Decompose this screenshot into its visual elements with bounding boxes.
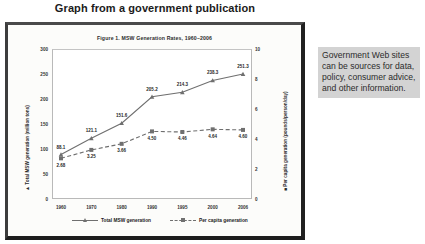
data-label: 3.25 <box>87 154 96 159</box>
right-axis-tick: 8 <box>255 77 258 82</box>
legend-item-total-msw: Total MSW generation <box>72 217 151 223</box>
x-axis-tick: 1960 <box>56 205 66 210</box>
data-point-marker <box>59 152 64 156</box>
figure-caption: Figure 1. MSW Generation Rates, 1960–200… <box>8 35 301 41</box>
page-title: Graph from a government publication <box>0 2 310 14</box>
x-axis-tick: 1995 <box>177 205 187 210</box>
plot-svg <box>53 50 251 198</box>
data-point-marker <box>150 129 154 133</box>
legend-swatch-dashed-square-icon <box>170 217 196 223</box>
data-label: 4.60 <box>239 134 248 139</box>
left-axis-tick: 150 <box>40 122 48 127</box>
x-axis-tick: 1990 <box>147 205 157 210</box>
side-note-box: Government Web sites can be sources for … <box>318 47 420 98</box>
x-axis-tick: 1970 <box>86 205 96 210</box>
data-point-marker <box>211 127 215 131</box>
data-label: 2.68 <box>57 163 66 168</box>
left-axis-tick: 200 <box>40 97 48 102</box>
data-label: 151.6 <box>116 113 127 118</box>
right-axis-title: ■ Per capita generation (pounds/person/d… <box>282 91 288 191</box>
left-axis-tick: 300 <box>40 47 48 52</box>
x-axis-tick: 2006 <box>238 205 248 210</box>
figure-frame: Figure 1. MSW Generation Rates, 1960–200… <box>5 22 305 240</box>
legend-label-total-msw: Total MSW generation <box>101 218 151 223</box>
left-axis-ticks: 050100150200250300 <box>30 49 48 199</box>
data-label: 121.1 <box>86 128 97 133</box>
legend-label-per-capita: Per capita generation <box>199 218 248 223</box>
data-label: 3.66 <box>117 148 126 153</box>
data-label: 205.2 <box>146 87 157 92</box>
chart-legend: Total MSW generation Per capita generati… <box>52 217 262 229</box>
data-label: 251.3 <box>237 64 248 69</box>
data-point-marker <box>241 128 245 132</box>
right-axis-marker-icon: ■ <box>282 188 288 191</box>
right-axis-ticks: 0246810 <box>255 49 273 199</box>
right-axis-tick: 4 <box>255 137 258 142</box>
data-point-marker <box>89 148 93 152</box>
right-axis-tick: 6 <box>255 107 258 112</box>
data-point-marker <box>59 156 63 160</box>
legend-item-per-capita: Per capita generation <box>170 217 248 223</box>
x-axis-tick: 2000 <box>208 205 218 210</box>
data-label: 4.50 <box>148 136 157 141</box>
data-label: 4.64 <box>208 134 217 139</box>
data-label: 88.1 <box>57 145 66 150</box>
right-axis-tick: 0 <box>255 197 258 202</box>
data-point-marker <box>120 142 124 146</box>
x-axis-tick: 1980 <box>117 205 127 210</box>
x-axis-ticks: 1960197019801990199520002006 <box>52 203 252 213</box>
figure-inner: Figure 1. MSW Generation Rates, 1960–200… <box>8 25 301 236</box>
data-label: 4.46 <box>178 136 187 141</box>
right-axis-tick: 10 <box>255 47 260 52</box>
data-label: 238.3 <box>207 70 218 75</box>
legend-swatch-solid-triangle-icon <box>72 217 98 223</box>
right-axis-tick: 2 <box>255 167 258 172</box>
right-axis-title-label: Per capita generation (pounds/person/day… <box>283 91 288 186</box>
left-axis-tick: 250 <box>40 72 48 77</box>
plot-area <box>52 49 252 199</box>
side-note-text: Government Web sites can be sources for … <box>322 50 415 93</box>
left-axis-tick: 100 <box>40 147 48 152</box>
left-axis-tick: 50 <box>43 172 48 177</box>
data-label: 214.3 <box>177 82 188 87</box>
data-point-marker <box>180 130 184 134</box>
left-axis-tick: 0 <box>45 197 48 202</box>
